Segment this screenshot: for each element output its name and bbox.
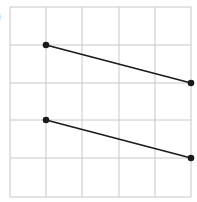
endpoint-dot	[43, 117, 50, 124]
grid-diagram	[0, 0, 197, 202]
endpoint-dot	[43, 42, 50, 49]
endpoint-dot	[188, 155, 195, 162]
endpoint-dot	[188, 80, 195, 87]
grid-lines	[10, 7, 191, 197]
